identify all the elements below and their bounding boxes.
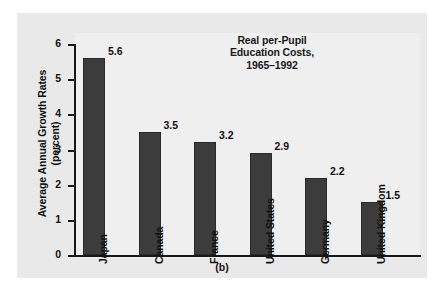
y-tick-label: 2 — [39, 178, 61, 190]
y-tick-mark — [68, 114, 74, 116]
y-tick-label: 3 — [39, 143, 61, 155]
y-tick-mark — [68, 150, 74, 152]
y-tick-mark — [68, 220, 74, 222]
figure-container: Real per-Pupil Education Costs, 1965–199… — [0, 0, 438, 296]
bar-category-label: Japan — [97, 234, 109, 264]
x-axis-line — [74, 255, 421, 257]
bar-value-label: 1.5 — [386, 189, 426, 201]
y-tick-label: 5 — [39, 72, 61, 84]
bar-category-label: France — [208, 230, 220, 264]
chart-panel: Real per-Pupil Education Costs, 1965–199… — [17, 13, 427, 278]
chart-title: Real per-Pupil Education Costs, 1965–199… — [192, 34, 352, 71]
chart-title-line-2: Education Costs, — [192, 46, 352, 58]
bar-value-label: 3.2 — [219, 129, 259, 141]
y-tick-label: 6 — [39, 37, 61, 49]
y-tick-mark — [68, 255, 74, 257]
chart-title-line-3: 1965–1992 — [192, 59, 352, 71]
y-tick-label: 4 — [39, 107, 61, 119]
bar-category-label: Germany — [319, 219, 331, 264]
bar — [83, 58, 105, 255]
figure-caption: (b) — [17, 261, 427, 273]
bar-value-label: 2.9 — [275, 140, 315, 152]
y-tick-mark — [68, 185, 74, 187]
bar-value-label: 3.5 — [164, 119, 204, 131]
y-tick-label: 0 — [39, 248, 61, 260]
bar-category-label: United States — [264, 198, 276, 264]
bar-category-label: Canada — [153, 227, 165, 264]
y-tick-mark — [68, 44, 74, 46]
y-tick-label: 1 — [39, 213, 61, 225]
y-tick-mark — [68, 79, 74, 81]
bar-value-label: 2.2 — [330, 165, 370, 177]
y-axis-line — [74, 44, 76, 257]
bar-category-label: United Kingdom — [375, 184, 387, 264]
chart-title-line-1: Real per-Pupil — [192, 34, 352, 46]
bar-value-label: 5.6 — [108, 45, 148, 57]
